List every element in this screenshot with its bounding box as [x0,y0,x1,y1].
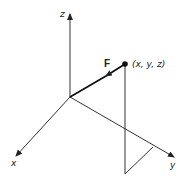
position-vector-line [70,76,106,97]
x-axis-label: x [10,158,17,168]
y-axis [70,97,174,157]
y-axis-label: y [169,160,176,170]
z-axis-label: z [59,9,65,19]
point-label: (x, y, z) [132,59,165,69]
force-label: F [104,58,110,69]
diagram-canvas: z x y F (x, y, z) [0,0,188,181]
point-dot [122,61,128,67]
dropline-to-y-axis [125,147,153,174]
x-axis [16,97,70,156]
